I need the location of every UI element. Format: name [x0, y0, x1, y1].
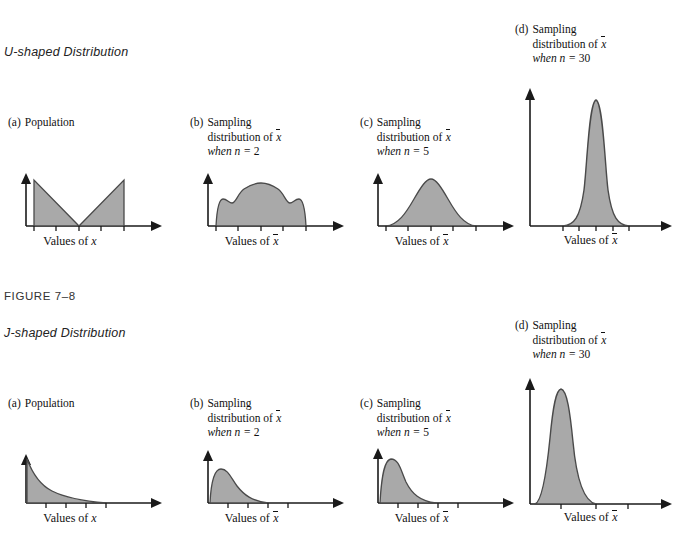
x-axis-label-j-c: Values of x [342, 511, 502, 526]
chart-u-shaped-population: Values of x [8, 168, 168, 238]
x-axis-label-u-c: Values of x [342, 234, 502, 249]
panel-caption-line1-j-d: Sampling [532, 319, 576, 331]
x-bar-symbol: x [445, 130, 451, 145]
panel-caption-line1-j-c: Sampling [377, 397, 421, 409]
distribution-curve [216, 183, 306, 226]
x-axis-label-u-a: Values of x [0, 234, 150, 249]
panel-caption-u-b: (b) Sampling distribution of x when n = … [190, 115, 350, 159]
x-bar-symbol: x [273, 511, 279, 526]
x-axis-label-u-b: Values of x [172, 234, 332, 249]
x-axis-arrow [151, 498, 162, 508]
y-axis-arrow [203, 173, 213, 184]
panel-tag-u-d: (d) [515, 22, 528, 37]
x-bar-symbol: x [276, 411, 282, 426]
chart-j-shaped-n30: Values of x [508, 368, 678, 515]
y-axis-arrow [21, 173, 31, 184]
figure-heading-j-shaped: FIGURE 7–8 J-shaped Distribution [4, 268, 126, 363]
x-axis-label-j-b: Values of x [172, 511, 332, 526]
panel-caption-j-b: (b) Sampling distribution of x when n = … [190, 396, 350, 440]
x-bar-symbol: x [443, 511, 449, 526]
x-axis-label-j-d: Values of x [506, 510, 676, 525]
panel-caption-line1-u-c: Sampling [377, 116, 421, 128]
panel-caption-line3-j-d: when n = 30 [532, 348, 590, 360]
panel-caption-line2-u-c: distribution of [377, 131, 445, 143]
panel-caption-u-d: (d) Sampling distribution of x when n = … [515, 22, 675, 66]
panel-caption-line1-j-b: Sampling [207, 397, 251, 409]
distribution-curve [34, 180, 124, 226]
x-axis-arrow [661, 221, 672, 231]
x-bar-symbol: x [443, 234, 449, 249]
x-bar-symbol: x [601, 37, 607, 52]
panel-caption-u-a: (a) Population [8, 115, 158, 130]
x-axis-arrow [151, 221, 162, 231]
x-bar-symbol: x [273, 234, 279, 249]
x-axis-arrow [333, 498, 344, 508]
x-axis-arrow [333, 221, 344, 231]
panel-caption-line3-u-d: when n = 30 [532, 52, 590, 64]
x-bar-symbol: x [445, 411, 451, 426]
distribution-curve [210, 469, 268, 503]
panel-caption-line1-j-a: Population [25, 397, 75, 409]
chart-j-shaped-n2: Values of x [190, 445, 350, 515]
panel-caption-line3-u-b: when n = 2 [207, 145, 259, 157]
panel-tag-u-b: (b) [190, 115, 203, 130]
figure-title-u-shaped: U-shaped Distribution [4, 44, 128, 61]
panel-caption-u-c: (c) Sampling distribution of x when n = … [360, 115, 520, 159]
x-axis-label-j-a: Values of x [0, 511, 150, 526]
panel-caption-j-d: (d) Sampling distribution of x when n = … [515, 318, 675, 362]
y-axis-arrow [21, 454, 31, 465]
panel-caption-line1-u-b: Sampling [207, 116, 251, 128]
figure-page: U-shaped Distribution (a) Population (b)… [0, 0, 682, 537]
distribution-curve [27, 459, 106, 503]
chart-j-shaped-population: Values of x [8, 445, 168, 515]
panel-caption-line2-u-d: distribution of [532, 38, 600, 50]
panel-caption-j-c: (c) Sampling distribution of x when n = … [360, 396, 520, 440]
figure-number-j-shaped: FIGURE 7–8 [4, 289, 126, 304]
distribution-curve [535, 389, 596, 504]
x-axis-arrow [661, 499, 672, 509]
panel-caption-line2-u-b: distribution of [207, 131, 275, 143]
panel-caption-line1-u-a: Population [25, 116, 75, 128]
panel-caption-line2-j-c: distribution of [377, 412, 445, 424]
x-bar-symbol: x [276, 130, 282, 145]
panel-tag-j-a: (a) [8, 396, 21, 411]
figure-heading-u-shaped: U-shaped Distribution [4, 2, 128, 82]
x-axis-label-u-d: Values of x [506, 233, 676, 248]
figure-title-j-shaped: J-shaped Distribution [4, 325, 126, 342]
panel-caption-line1-u-d: Sampling [532, 23, 576, 35]
panel-tag-u-c: (c) [360, 115, 373, 130]
y-axis-arrow [373, 448, 383, 459]
y-axis-arrow [373, 173, 383, 184]
panel-tag-j-d: (d) [515, 318, 528, 333]
distribution-curve [380, 459, 436, 503]
distribution-curve [386, 179, 476, 226]
y-axis-arrow [525, 378, 535, 390]
panel-tag-j-b: (b) [190, 396, 203, 411]
chart-u-shaped-n30: Values of x [508, 78, 678, 238]
panel-caption-line3-j-b: when n = 2 [207, 426, 259, 438]
panel-caption-line3-u-c: when n = 5 [377, 145, 429, 157]
y-axis-arrow [525, 88, 535, 100]
x-bar-symbol: x [612, 510, 618, 525]
x-bar-symbol: x [612, 233, 618, 248]
distribution-curve [563, 100, 629, 226]
panel-caption-line2-j-b: distribution of [207, 412, 275, 424]
y-axis-arrow [203, 450, 213, 461]
panel-caption-line2-j-d: distribution of [532, 334, 600, 346]
panel-tag-u-a: (a) [8, 115, 21, 130]
chart-u-shaped-n2: Values of x [190, 168, 350, 238]
chart-u-shaped-n5: Values of x [360, 168, 520, 238]
panel-caption-line3-j-c: when n = 5 [377, 426, 429, 438]
chart-j-shaped-n5: Values of x [360, 445, 520, 515]
x-bar-symbol: x [601, 333, 607, 348]
panel-caption-j-a: (a) Population [8, 396, 158, 411]
panel-tag-j-c: (c) [360, 396, 373, 411]
